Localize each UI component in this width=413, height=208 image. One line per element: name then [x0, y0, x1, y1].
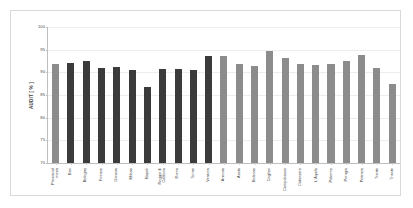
bar-cell	[339, 27, 354, 163]
y-tick-label: 85	[40, 93, 45, 97]
x-tick-mark	[300, 163, 301, 165]
x-tick-label: Napoli	[145, 168, 149, 208]
x-tick-mark	[132, 163, 133, 165]
y-tick-label: 95	[40, 48, 45, 52]
x-label-cell: Ancona	[216, 166, 231, 208]
x-tick-mark	[346, 163, 347, 165]
y-tick-label: 90	[40, 70, 45, 74]
x-tick-label: Torino	[191, 168, 195, 208]
bar	[312, 65, 319, 163]
bar	[129, 70, 136, 163]
bar-cell	[232, 27, 247, 163]
chart-frame: AUDIT [ % ] 707580859095100 Provincial m…	[10, 10, 401, 196]
x-tick-mark	[224, 163, 225, 165]
x-tick-mark	[56, 163, 57, 165]
x-tick-label: Potenza	[359, 168, 363, 208]
x-label-cell: Campobasso	[277, 166, 292, 208]
bar-cell	[155, 27, 170, 163]
bar-cell	[201, 27, 216, 163]
x-tick-mark	[117, 163, 118, 165]
x-label-cell: Potenza	[354, 166, 369, 208]
chart-screenshot: AUDIT [ % ] 707580859095100 Provincial m…	[0, 0, 413, 208]
x-tick-label: Perugia	[344, 168, 348, 208]
y-tick-label: 70	[40, 161, 45, 165]
bar	[67, 63, 74, 163]
bar	[389, 84, 396, 163]
x-label-cell: Perugia	[339, 166, 354, 208]
x-tick-mark	[147, 163, 148, 165]
bar-cell	[124, 27, 139, 163]
x-tick-label: Genova	[114, 168, 118, 208]
bar	[113, 67, 120, 163]
bar-cell	[385, 27, 400, 163]
bar	[190, 70, 197, 163]
x-tick-label: Catanzaro	[298, 168, 302, 208]
bar-cell	[323, 27, 338, 163]
x-tick-label: Provincial mean	[50, 168, 59, 208]
x-tick-mark	[71, 163, 72, 165]
x-tick-mark	[331, 163, 332, 165]
x-tick-mark	[316, 163, 317, 165]
plot-area: 707580859095100	[47, 27, 400, 164]
x-tick-label: Campobasso	[283, 168, 287, 208]
x-tick-mark	[285, 163, 286, 165]
bar	[266, 51, 273, 163]
bar	[144, 87, 151, 163]
x-label-cell: Roma	[170, 166, 185, 208]
bar	[220, 56, 227, 163]
x-tick-mark	[270, 163, 271, 165]
x-label-cell: Venezia	[200, 166, 215, 208]
x-axis-labels: Provincial meanBariBolognaFirenzeGenovaM…	[47, 166, 400, 208]
bar	[98, 68, 105, 163]
bar-series	[48, 27, 400, 163]
bar	[358, 55, 365, 163]
x-tick-mark	[362, 163, 363, 165]
x-tick-mark	[102, 163, 103, 165]
x-tick-mark	[255, 163, 256, 165]
x-tick-mark	[209, 163, 210, 165]
x-tick-label: Ancona	[221, 168, 225, 208]
bar	[159, 69, 166, 163]
bar	[175, 69, 182, 163]
x-label-cell: Trieste	[385, 166, 400, 208]
x-tick-label: Trento	[375, 168, 379, 208]
x-label-cell: Catanzaro	[293, 166, 308, 208]
x-label-cell: Provincial mean	[47, 166, 62, 208]
x-label-cell: Trento	[369, 166, 384, 208]
bar-cell	[140, 27, 155, 163]
x-label-cell: L'Aquila	[308, 166, 323, 208]
x-label-cell: Aosta	[231, 166, 246, 208]
x-tick-label: Palermo	[329, 168, 333, 208]
bar-cell	[94, 27, 109, 163]
x-tick-label: Cagliari	[267, 168, 271, 208]
bar	[205, 56, 212, 163]
y-tick-mark	[46, 163, 48, 164]
x-tick-label: Bologna	[83, 168, 87, 208]
bar-cell	[170, 27, 185, 163]
x-tick-mark	[377, 163, 378, 165]
bar-cell	[79, 27, 94, 163]
x-label-cell: Milano	[124, 166, 139, 208]
x-tick-label: Firenze	[99, 168, 103, 208]
x-label-cell: Firenze	[93, 166, 108, 208]
bar-cell	[369, 27, 384, 163]
x-label-cell: Bolzano	[246, 166, 261, 208]
y-tick-label: 80	[40, 116, 45, 120]
y-axis-title: AUDIT [ % ]	[27, 27, 37, 164]
bar-cell	[277, 27, 292, 163]
x-tick-label: Roma	[175, 168, 179, 208]
bar	[327, 64, 334, 163]
x-tick-label: Milano	[129, 168, 133, 208]
x-tick-label: Aosta	[237, 168, 241, 208]
x-tick-mark	[239, 163, 240, 165]
bar	[297, 64, 304, 163]
y-tick-label: 100	[38, 25, 45, 29]
bar	[236, 64, 243, 163]
bar	[373, 68, 380, 163]
x-label-cell: Torino	[185, 166, 200, 208]
x-tick-label: Bari	[68, 168, 72, 208]
bar	[52, 64, 59, 163]
bar-cell	[262, 27, 277, 163]
bar-cell	[354, 27, 369, 163]
x-tick-label: Trieste	[390, 168, 394, 208]
